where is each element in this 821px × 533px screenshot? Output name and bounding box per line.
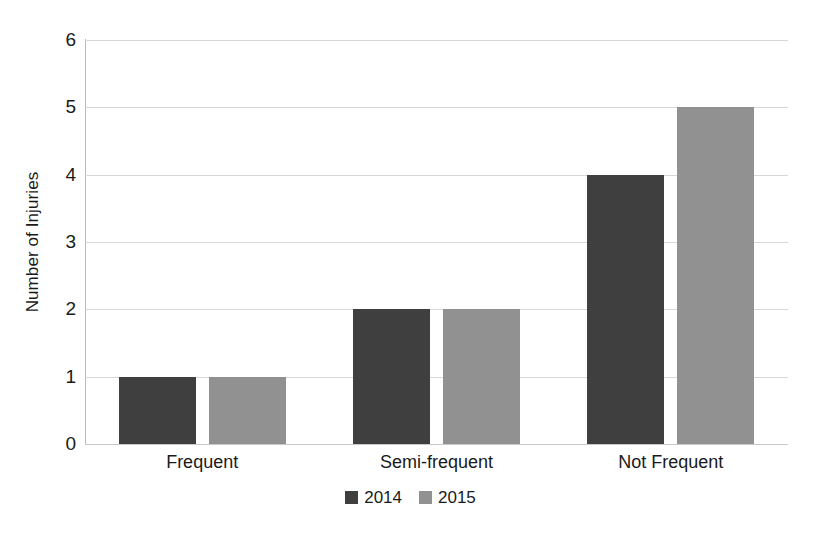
y-axis-tick-label: 5	[50, 96, 76, 118]
y-axis-tick-label: 4	[50, 164, 76, 186]
legend-label: 2015	[438, 489, 476, 506]
x-axis-category-label: Semi-frequent	[380, 452, 493, 473]
gridline	[85, 444, 788, 445]
legend-entry: 2015	[419, 489, 476, 506]
bar	[209, 377, 286, 444]
x-axis-category-labels: FrequentSemi-frequentNot Frequent	[85, 452, 788, 480]
bar-chart-figure: Number of Injuries 0123456 FrequentSemi-…	[0, 0, 821, 533]
y-axis-tick-labels: 0123456	[40, 40, 76, 444]
bar	[353, 309, 430, 444]
bars-layer	[85, 40, 788, 444]
y-axis-tick-label: 0	[50, 433, 76, 455]
bar	[443, 309, 520, 444]
y-axis-tick-label: 1	[50, 366, 76, 388]
x-axis-category-label: Not Frequent	[618, 452, 723, 473]
bar	[119, 377, 196, 444]
legend-label: 2014	[364, 489, 402, 506]
bar	[587, 175, 664, 444]
y-axis-tick-label: 3	[50, 231, 76, 253]
y-axis-tick-label: 6	[50, 29, 76, 51]
legend-swatch-icon	[345, 491, 358, 504]
plot-area	[85, 40, 788, 444]
chart-legend: 20142015	[0, 489, 821, 506]
legend-entry: 2014	[345, 489, 402, 506]
bar	[677, 107, 754, 444]
x-axis-category-label: Frequent	[166, 452, 238, 473]
y-axis-tick-label: 2	[50, 298, 76, 320]
legend-swatch-icon	[419, 491, 432, 504]
